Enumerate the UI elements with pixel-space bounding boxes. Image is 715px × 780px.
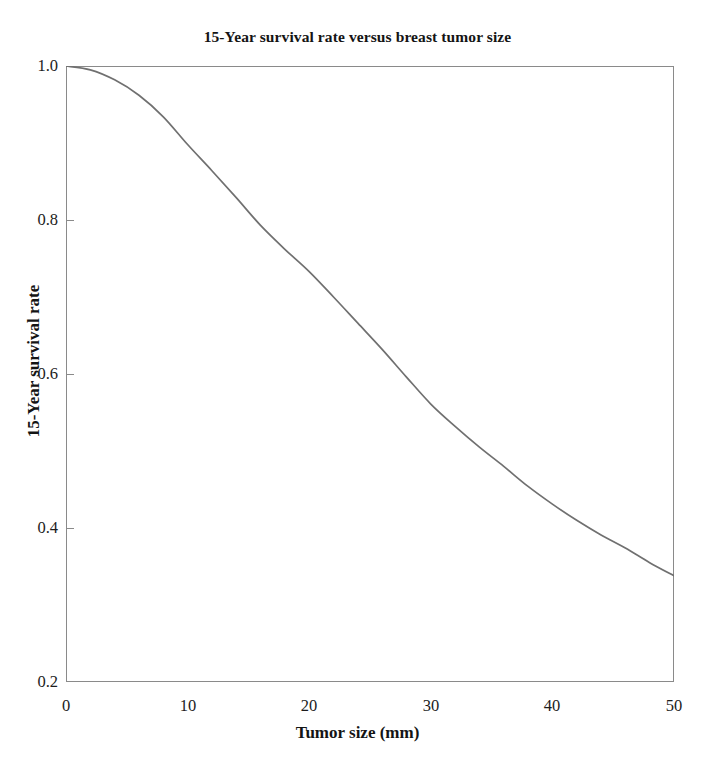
xtick-label-1: 0: [62, 696, 70, 716]
xtick-label-6: 50: [666, 696, 683, 716]
plot-frame: [67, 67, 674, 682]
chart-figure: 15-Year survival rate versus breast tumo…: [0, 0, 715, 780]
xtick-label-4: 30: [423, 696, 440, 716]
xtick-label-3: 20: [301, 696, 318, 716]
plot-svg: [66, 66, 674, 682]
ytick-label-5: 0.2: [10, 672, 58, 692]
xtick-label-2: 10: [180, 696, 197, 716]
chart-title: 15-Year survival rate versus breast tumo…: [0, 28, 715, 46]
ytick-label-4: 0.4: [10, 518, 58, 538]
plot-area: 1.0 0.8 0.6 0.4 0.2 0 10 20 30 40 50: [66, 66, 674, 682]
ytick-label-1: 1.0: [10, 56, 58, 76]
ytick-label-2: 0.8: [10, 210, 58, 230]
xtick-label-5: 40: [544, 696, 561, 716]
y-axis-label: 15-Year survival rate: [24, 231, 44, 491]
x-axis-label: Tumor size (mm): [0, 723, 715, 743]
